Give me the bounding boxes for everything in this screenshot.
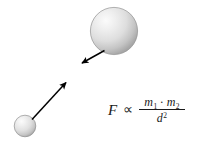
distance-exponent: 2 (163, 112, 167, 120)
multiplication-dot-icon: · (160, 96, 164, 108)
mass2-subscript: 2 (176, 103, 180, 111)
fraction-denominator: d2 (155, 110, 169, 124)
mass1-symbol: m (144, 96, 153, 108)
distance-symbol: d (157, 112, 163, 124)
mass1-subscript: 1 (153, 103, 157, 111)
gravitation-formula: F ∝ m1 · m2 d2 (108, 96, 185, 124)
mass-distance-fraction: m1 · m2 d2 (139, 96, 185, 124)
gravitation-figure: F ∝ m1 · m2 d2 (0, 0, 207, 145)
proportional-symbol: ∝ (123, 103, 133, 117)
force-arrow-on-small-mass (32, 83, 66, 120)
mass2-symbol: m (167, 96, 176, 108)
force-arrow-on-large-mass (82, 51, 105, 64)
force-symbol: F (108, 103, 118, 118)
fraction-numerator: m1 · m2 (142, 96, 181, 109)
large-mass-sphere (90, 7, 137, 54)
